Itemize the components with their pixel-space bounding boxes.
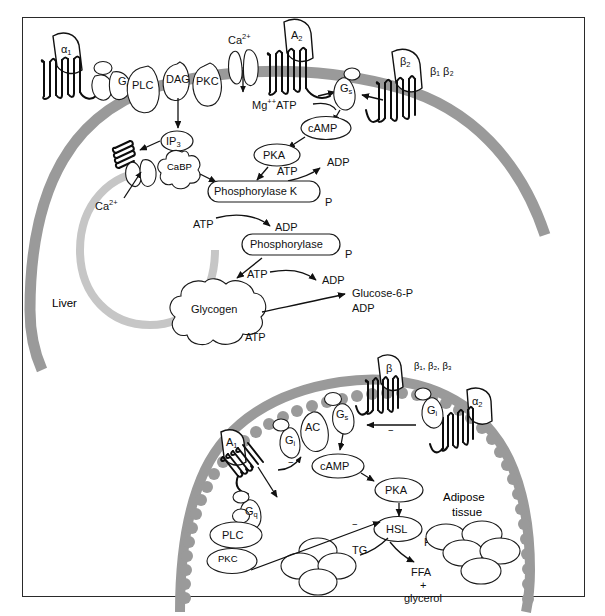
phosk-adp-label: ADP — [327, 156, 350, 168]
adipose-tissue-label-line1: Adipose — [443, 491, 485, 503]
ffa-label: FFA — [411, 566, 432, 578]
glycogen-to-g6p-arrow — [262, 294, 345, 312]
phos-atp-label: ATP — [193, 218, 214, 230]
adenylyl-cyclase-label: AC — [305, 421, 320, 433]
signaling-diagram: α1 Gq PLC DAG PKC IP3 — [0, 0, 605, 616]
liver-cabp-label: CaBP — [167, 161, 192, 172]
ip3-to-er-arrow — [140, 141, 160, 150]
A2-receptor[interactable] — [268, 19, 330, 98]
glycogen-label: Glycogen — [191, 303, 237, 315]
phos-atp-adp-curve — [216, 215, 270, 226]
liver-pkc-label: PKC — [196, 75, 219, 87]
liver-dag-label: DAG — [166, 73, 190, 85]
er-calcium-label: Ca2+ — [95, 198, 118, 212]
cabp-to-phosk-arrow — [200, 174, 216, 182]
adipose-fat-cell-cluster — [426, 521, 520, 584]
adipose-camp-label: cAMP — [320, 460, 349, 472]
glycogen-atp-label: ATP — [247, 268, 268, 280]
glycogen-adp-label: ADP — [322, 274, 345, 286]
liver-beta-family-label: β₁ β₂ — [430, 65, 454, 77]
phosphorylase-k-label: Phosphorylase K — [214, 185, 298, 197]
liver-plasma-calcium-channel[interactable] — [229, 50, 259, 92]
tg-label: TG — [352, 544, 367, 556]
mgatp-curve — [313, 103, 336, 110]
glycogen-atp2-label: ATP — [245, 331, 266, 343]
adipose-beta-family-label: β₁, β₂, β₃ — [414, 360, 452, 371]
g6p-adp-label: ADP — [352, 302, 375, 314]
er-calcium-channel[interactable] — [124, 160, 156, 198]
TG-lipid-droplets[interactable] — [281, 538, 356, 595]
gi-left-inhibition-sign: − — [288, 457, 294, 468]
hsl-label: HSL — [386, 523, 407, 535]
phosphorylase-label: Phosphorylase — [250, 238, 323, 250]
liver-pka-label: PKA — [263, 149, 286, 161]
hsl-to-ffa-arrow — [390, 542, 414, 562]
adipose-pka-label: PKA — [385, 484, 408, 496]
phosphorylase-phosphate: P — [345, 248, 352, 260]
gi-right-inhibition-sign: − — [388, 425, 394, 436]
adipose-tissue-label-line2: tissue — [452, 506, 482, 518]
mg-atp-label: Mg++ATP — [252, 97, 297, 111]
ffa-plus-label: + — [420, 579, 426, 591]
liver-calcium-channel-label: Ca2+ — [228, 32, 251, 46]
liver-plc-label: PLC — [132, 79, 153, 91]
adipose-gs-to-camp-arrow — [340, 434, 343, 450]
phosk-atp-label: ATP — [277, 165, 298, 177]
phos-adp-label: ADP — [275, 221, 298, 233]
pkc-inhibition-sign: − — [352, 519, 358, 530]
liver-camp-label: cAMP — [308, 122, 337, 134]
pka-to-phosk-arrow — [257, 167, 268, 180]
alpha1-receptor[interactable] — [42, 33, 96, 99]
adipose-camp-to-pka-arrow — [361, 473, 374, 481]
adipose-beta-receptor[interactable] — [356, 355, 403, 415]
adipose-plc-label: PLC — [222, 529, 243, 541]
a2-to-gs-arrow — [318, 92, 335, 96]
figure-canvas: α1 Gq PLC DAG PKC IP3 — [0, 0, 605, 616]
glycerol-label: glycerol — [404, 592, 442, 604]
adipose-beta-receptor-label: β — [386, 362, 392, 374]
glycogen-atp-adp-curve — [270, 270, 316, 280]
a1-to-gq-arrow — [258, 467, 277, 497]
glucose6p-label: Glucose-6-P — [352, 287, 413, 299]
adipose-pkc-label: PKC — [218, 553, 238, 564]
liver-tissue-label: Liver — [52, 297, 77, 309]
phosphorylase-k-phosphate: P — [325, 196, 332, 208]
